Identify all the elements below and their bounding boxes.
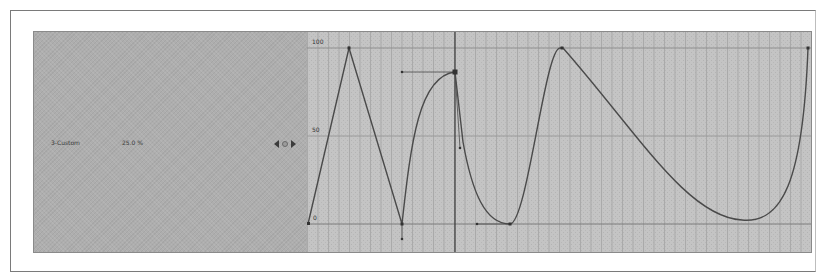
track-value[interactable]: 25.0 % bbox=[122, 139, 143, 146]
next-keyframe-arrow-icon[interactable] bbox=[291, 140, 296, 148]
track-name: 3-Custom bbox=[51, 139, 80, 146]
tangent-handle-point[interactable] bbox=[459, 147, 462, 150]
curve-graph[interactable]: 100 50 0 bbox=[307, 32, 811, 252]
curve-graph-canvas[interactable] bbox=[307, 32, 811, 252]
tangent-handle-point[interactable] bbox=[476, 223, 479, 226]
y-axis-label-0: 0 bbox=[313, 214, 317, 221]
keyframe-toggle-icon[interactable] bbox=[282, 141, 288, 147]
keyframe-point[interactable] bbox=[348, 47, 351, 50]
y-axis-label-50: 50 bbox=[312, 126, 320, 133]
keyframe-point[interactable] bbox=[509, 223, 512, 226]
animation-editor-panel: 3-Custom 25.0 % bbox=[33, 31, 812, 253]
keyframe-point-selected[interactable] bbox=[453, 70, 458, 75]
keyframe-navigator bbox=[274, 139, 296, 149]
tangent-handle-point[interactable] bbox=[401, 71, 404, 74]
keyframe-point[interactable] bbox=[307, 222, 310, 225]
track-row[interactable]: 3-Custom 25.0 % bbox=[34, 136, 307, 152]
prev-keyframe-arrow-icon[interactable] bbox=[274, 140, 279, 148]
keyframe-point[interactable] bbox=[561, 47, 564, 50]
track-list: 3-Custom 25.0 % bbox=[34, 32, 307, 252]
keyframe-point[interactable] bbox=[401, 223, 404, 226]
keyframe-point[interactable] bbox=[807, 47, 810, 50]
y-axis-label-100: 100 bbox=[312, 38, 323, 45]
tangent-handle-point[interactable] bbox=[401, 238, 404, 241]
